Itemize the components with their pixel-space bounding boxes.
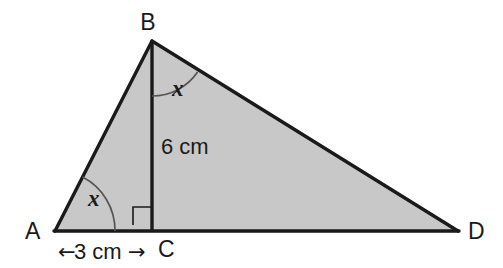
vertex-label-c: C bbox=[158, 236, 175, 262]
dimension-right-arrow-icon: → bbox=[128, 240, 146, 264]
angle-label-at-b: x bbox=[171, 76, 184, 101]
vertex-label-a: A bbox=[25, 218, 41, 244]
triangle-geometry-figure: A B C D x x 6 cm ← 3 cm → bbox=[0, 0, 503, 268]
triangle-abd-fill bbox=[55, 41, 458, 231]
base-measurement-label: 3 cm bbox=[74, 239, 122, 264]
vertex-label-b: B bbox=[140, 9, 155, 35]
angle-label-at-a: x bbox=[87, 186, 100, 211]
dimension-left-arrow-icon: ← bbox=[58, 240, 76, 264]
height-measurement-label: 6 cm bbox=[161, 134, 209, 159]
vertex-label-d: D bbox=[468, 218, 485, 244]
